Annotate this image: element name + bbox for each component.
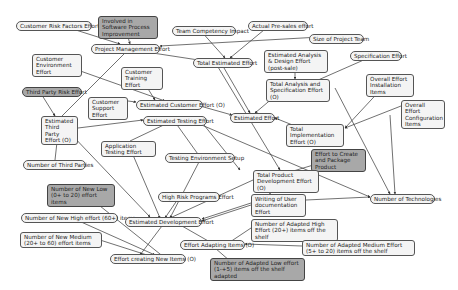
diagram-node[interactable]: Number of Third Parties (23, 160, 86, 170)
diagram-node[interactable]: Application Testing Effort (101, 141, 156, 157)
diagram-node[interactable]: Team Competency Impact (172, 26, 236, 36)
diagram-node[interactable]: Total Implementation Effort (O) (286, 124, 344, 147)
diagram-edge (170, 160, 200, 218)
diagram-node[interactable]: Project Management Effort (91, 44, 160, 54)
diagram-node[interactable]: Estimated Analysis & Design Effort (post… (264, 50, 328, 73)
diagram-node[interactable]: Number of New High effort (60+) items (21, 213, 118, 223)
diagram-node[interactable]: Customer Training Effort (121, 67, 163, 90)
diagram-node[interactable]: Effort to Create and Package Product (311, 149, 366, 172)
diagram-node[interactable]: Involved in Software Process Improvement (98, 16, 158, 39)
diagram-node[interactable]: Customer Support Effort (88, 97, 128, 120)
diagram-edge (345, 106, 401, 128)
diagram-node[interactable]: Specification Effort (350, 51, 402, 61)
diagram-node[interactable]: Estimated Testing Effort (143, 116, 207, 126)
diagram-node[interactable]: Customer Risk Factors Effort (16, 21, 92, 31)
diagram-node[interactable]: Estimated Effort (230, 113, 275, 123)
diagram-node[interactable]: Number of Adapted Low effort (1-+5) item… (210, 258, 305, 281)
diagram-node[interactable]: Customer Environment Effort (32, 54, 82, 77)
diagram-node[interactable]: Total Estimated Effort (193, 58, 253, 68)
diagram-edge (140, 222, 165, 255)
diagram-node[interactable]: Total Product Development Effort (O) (253, 170, 319, 193)
diagram-node[interactable]: Effort Adapting Items (O) (180, 240, 245, 250)
diagram-edge (390, 115, 395, 194)
diagram-edge (175, 122, 200, 157)
diagram-node[interactable]: Number of New Medium (20+ to 60) effort … (20, 232, 102, 248)
diagram-node[interactable]: Overall Effort Installation Items (366, 74, 414, 97)
diagram-node[interactable]: Number of New Low (0+ to 20) effort item… (47, 184, 115, 207)
diagram-node[interactable]: Estimated Development Effort (125, 217, 202, 227)
diagram-node[interactable]: Overall Effort Configuration Items (401, 100, 445, 129)
diagram-edge (130, 148, 160, 218)
diagram-node[interactable]: Number of Adapted Medium Effort (5+ to 2… (302, 240, 415, 256)
diagram-node[interactable]: Third Party Risk Effort (22, 87, 82, 97)
diagram-node[interactable]: Actual Pre-sales effort (248, 21, 308, 31)
diagram-node[interactable]: Estimated Customer Effort (O) (136, 100, 203, 110)
diagram-node[interactable]: Testing Environment Setup (165, 153, 235, 163)
diagram-edge (128, 101, 136, 102)
diagram-edge (78, 120, 143, 128)
diagram-node[interactable]: Writing of User documentation Effort (251, 194, 306, 217)
diagram-node[interactable]: Size of Project Team (309, 34, 364, 44)
diagram-edge (306, 197, 370, 200)
diagram-node[interactable]: High Risk Programs Effort (158, 192, 220, 202)
diagram-edge (202, 203, 251, 219)
diagram-node[interactable]: Effort creating New Items (O) (110, 254, 186, 264)
diagram-node[interactable]: Estimated Third Party Effort (O) (41, 116, 78, 145)
dependency-diagram: Customer Risk Factors EffortInvolved in … (0, 0, 458, 290)
diagram-node[interactable]: Number of Technologies (370, 194, 435, 204)
diagram-node[interactable]: Number of Adapted High Effort (20+) item… (251, 219, 338, 242)
diagram-node[interactable]: Total Analysis and Specification Effort … (266, 79, 330, 102)
diagram-edge (160, 37, 320, 46)
